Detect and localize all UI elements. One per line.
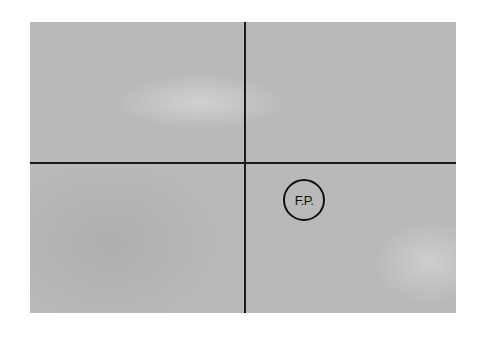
fp-circle-marker: F.P.	[283, 179, 325, 221]
gray-field	[30, 22, 456, 313]
fp-label: F.P.	[295, 193, 314, 208]
horizontal-divider-line	[30, 162, 456, 164]
vertical-divider-line	[244, 22, 246, 313]
